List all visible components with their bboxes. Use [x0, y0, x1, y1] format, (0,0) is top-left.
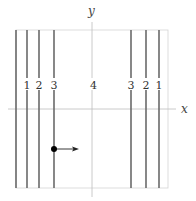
- particle-dot: [51, 146, 57, 152]
- y-axis-label: y: [87, 4, 95, 18]
- line-label-3-left: 3: [51, 79, 58, 92]
- line-label-1-right: 1: [156, 79, 163, 92]
- line-label-2-right: 2: [143, 79, 150, 92]
- line-label-2-left: 2: [36, 79, 43, 92]
- x-axis-label: x: [181, 102, 188, 116]
- center-label: 4: [90, 79, 97, 92]
- level-set-diagram: x y 1 2 3 4 3 2 1: [0, 0, 196, 201]
- line-label-1-left: 1: [24, 79, 31, 92]
- line-label-3-right: 3: [128, 79, 135, 92]
